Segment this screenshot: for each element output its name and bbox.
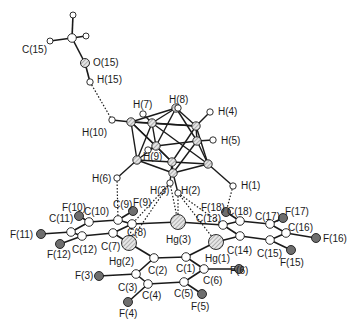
carbon-atom bbox=[68, 34, 77, 43]
atom-label: F(6) bbox=[230, 266, 248, 276]
atom-label: C(8) bbox=[127, 228, 146, 238]
mercury-atom bbox=[209, 235, 224, 250]
carbon-atom bbox=[200, 265, 209, 274]
fluorine-atom bbox=[95, 272, 104, 281]
atom-label: H(2) bbox=[181, 186, 200, 196]
atom-label: C(16) bbox=[288, 223, 313, 233]
carbon-atom bbox=[85, 218, 94, 227]
boron-atom bbox=[152, 142, 160, 150]
hydrogen-atom bbox=[175, 105, 181, 111]
fluorine-atom bbox=[56, 240, 65, 249]
fluorine-atom bbox=[287, 246, 296, 255]
atom-label: C(18) bbox=[227, 207, 252, 217]
atom-label: H(3) bbox=[150, 186, 169, 196]
oxygen-atom bbox=[81, 59, 90, 68]
atom-label: C(6) bbox=[203, 276, 222, 286]
carbon-atom bbox=[236, 232, 245, 241]
carbon-atom bbox=[114, 216, 123, 225]
hydrogen-atom bbox=[70, 12, 76, 18]
molecular-structure-diagram: C(15)O(15)H(15)H(8)H(7)H(4)H(5)H(10)H(9)… bbox=[0, 0, 358, 328]
carbon-atom bbox=[67, 228, 76, 237]
atom-label: C(17) bbox=[255, 212, 280, 222]
fluorine-atom bbox=[37, 230, 46, 239]
atom-label: C(9) bbox=[113, 200, 132, 210]
atom-label: C(15) bbox=[22, 45, 47, 55]
carbon-atom bbox=[150, 254, 159, 263]
atom-label: H(15) bbox=[97, 75, 122, 85]
atom-label: H(8) bbox=[169, 95, 188, 105]
carbon-atom bbox=[109, 229, 118, 238]
atom-label: F(15) bbox=[280, 258, 304, 268]
hydrogen-atom bbox=[207, 109, 213, 115]
atom-label: C(10) bbox=[84, 207, 109, 217]
atom-label: C(15) bbox=[257, 249, 282, 259]
atom-label: H(4) bbox=[218, 107, 237, 117]
molecule-graphic bbox=[0, 0, 358, 328]
atom-label: H(1) bbox=[241, 181, 260, 191]
atom-label: C(5) bbox=[174, 289, 193, 299]
boron-atom bbox=[169, 169, 177, 177]
atom-label: C(13) bbox=[196, 214, 221, 224]
hydrogen-atom bbox=[210, 137, 216, 143]
atom-label: F(18) bbox=[201, 203, 225, 213]
atom-label: H(5) bbox=[221, 136, 240, 146]
carbon-atom bbox=[180, 278, 189, 287]
carbon-atom bbox=[182, 253, 191, 262]
hydrogen-atom bbox=[109, 117, 115, 123]
boron-atom bbox=[148, 119, 156, 127]
atom-label: H(7) bbox=[133, 100, 152, 110]
atom-label: C(2) bbox=[148, 266, 167, 276]
fluorine-atom bbox=[124, 298, 133, 307]
mercury-atom bbox=[171, 215, 186, 230]
carbon-atom bbox=[266, 236, 275, 245]
atom-label: Hg(2) bbox=[109, 257, 134, 267]
atom-label: C(12) bbox=[72, 245, 97, 255]
atom-label: C(11) bbox=[49, 214, 73, 224]
boron-atom bbox=[127, 118, 135, 126]
hydrogen-atom bbox=[230, 183, 236, 189]
boron-atom bbox=[193, 137, 201, 145]
hydrogen-atom bbox=[47, 38, 53, 44]
atom-label: C(1) bbox=[176, 264, 195, 274]
atom-label: F(4) bbox=[119, 309, 137, 319]
atom-label: F(3) bbox=[75, 271, 93, 281]
atom-label: F(17) bbox=[285, 207, 309, 217]
carbon-atom bbox=[132, 270, 141, 279]
hydrogen-atom bbox=[87, 79, 93, 85]
atom-label: F(10) bbox=[62, 203, 86, 213]
carbon-atom bbox=[236, 217, 245, 226]
hydrogen-atom bbox=[83, 33, 89, 39]
boron-atom bbox=[204, 160, 212, 168]
boron-atom bbox=[192, 122, 200, 130]
carbon-atom bbox=[78, 232, 87, 241]
atom-label: O(15) bbox=[93, 58, 119, 68]
boron-atom bbox=[168, 158, 176, 166]
atom-label: F(9) bbox=[133, 198, 151, 208]
atom-label: H(9) bbox=[143, 152, 162, 162]
atom-label: C(14) bbox=[227, 246, 252, 256]
atom-label: C(4) bbox=[142, 291, 161, 301]
atom-label: Hg(3) bbox=[166, 235, 191, 245]
atom-label: H(6) bbox=[92, 174, 111, 184]
boron-atom bbox=[133, 156, 141, 164]
atom-label: F(11) bbox=[10, 230, 33, 240]
fluorine-atom bbox=[198, 290, 207, 299]
fluorine-atom bbox=[312, 234, 321, 243]
hydrogen-atom bbox=[140, 111, 146, 117]
atom-label: C(7) bbox=[101, 242, 120, 252]
hydrogen-atom bbox=[114, 175, 120, 181]
atom-label: F(16) bbox=[323, 234, 347, 244]
atom-label: F(5) bbox=[191, 302, 209, 312]
atom-label: H(10) bbox=[82, 128, 107, 138]
atom-label: C(3) bbox=[118, 283, 137, 293]
atom-label: F(12) bbox=[47, 250, 71, 260]
carbon-atom bbox=[144, 280, 153, 289]
